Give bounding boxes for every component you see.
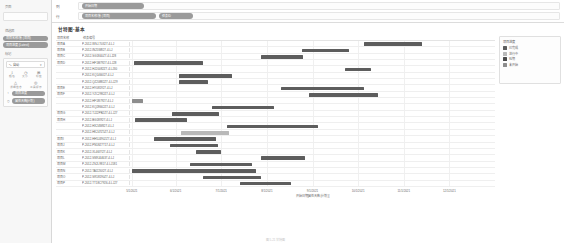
gridline <box>358 174 359 179</box>
gridline <box>132 162 133 167</box>
label-button[interactable]: ⊞ 标签 <box>33 70 44 79</box>
gantt-bar[interactable] <box>181 131 228 135</box>
worksheet-main: 列 开始日期 行 项目名称/集 (项目) 任务ID 甘特图-基本 项目名称 任务… <box>52 0 564 243</box>
gantt-bar[interactable] <box>170 144 217 148</box>
gantt-chart: 项目名称 任务编号 项目AP-2012-WSJ-T0327-4-LJ项目BP-2… <box>56 34 495 243</box>
gridline <box>449 47 450 52</box>
gantt-bar[interactable] <box>309 93 378 97</box>
gantt-bar[interactable] <box>203 176 261 180</box>
gridline <box>313 60 314 65</box>
gridline <box>267 85 268 90</box>
gridline <box>404 104 405 109</box>
row-plot-cell <box>130 168 495 173</box>
table-header: 项目名称 任务编号 <box>56 34 495 41</box>
row-project-label: 项目E <box>56 86 82 90</box>
gantt-bar[interactable] <box>302 49 349 53</box>
marks-card: ⤡ 自动 ▾ ↕ 颜色 ◷ 大小 ⊞ 标签 <box>3 58 48 106</box>
gantt-bar[interactable] <box>212 106 274 110</box>
legend-item[interactable]: 未开始 <box>503 63 557 67</box>
gridline <box>267 41 268 46</box>
rows-shelf-well[interactable]: 项目名称/集 (项目) 任务ID <box>78 12 560 20</box>
row-plot-cell <box>130 174 495 179</box>
size-button[interactable]: ◷ 大小 <box>20 70 31 79</box>
gridline <box>404 85 405 90</box>
gridline <box>132 181 133 186</box>
color-button[interactable]: ↕ 颜色 <box>7 70 18 79</box>
column-header-task-id: 任务编号 <box>83 35 131 40</box>
table-row[interactable]: 项目PP-2012-TT18C7926-4-LJ27 <box>56 181 495 187</box>
gridline <box>132 149 133 154</box>
row-project-label: 项目F <box>56 92 82 96</box>
gridline <box>404 174 405 179</box>
rows-pill-project[interactable]: 项目名称/集 (项目) <box>82 13 156 19</box>
row-project-label: 项目B <box>56 48 82 52</box>
row-plot-cell <box>130 130 495 135</box>
row-task-id: P-2012-HJ20082Z7-4-LJ30 <box>82 67 130 71</box>
tooltip-button[interactable]: ◎ 工具提示 <box>30 80 41 89</box>
row-task-id: P-2012-TT18C7926-4-LJ27 <box>82 181 130 185</box>
gridline <box>404 54 405 59</box>
detail-button[interactable]: △ 详细信息 <box>10 80 21 89</box>
gridline <box>267 149 268 154</box>
gantt-bar[interactable] <box>364 42 422 46</box>
pages-drop-zone[interactable] <box>3 12 48 21</box>
gridline <box>404 73 405 78</box>
gridline <box>404 149 405 154</box>
gantt-bar[interactable] <box>196 150 222 154</box>
gridline <box>358 54 359 59</box>
gantt-bar[interactable] <box>261 55 303 59</box>
row-plot-cell <box>130 85 495 90</box>
gantt-bar[interactable] <box>190 163 252 167</box>
gridline <box>358 41 359 46</box>
gridline <box>358 149 359 154</box>
legend-item[interactable]: 已完成 <box>503 46 557 50</box>
gantt-bar[interactable] <box>240 182 291 186</box>
gantt-bar[interactable] <box>179 80 208 84</box>
gridline <box>132 136 133 141</box>
filter-pill-project[interactable]: 项目名称/集 (项目) <box>3 36 48 41</box>
filter-pill-progress[interactable]: 项目进度 (Latest) <box>3 42 48 47</box>
gantt-bar[interactable] <box>154 137 216 141</box>
mark-pill-progress[interactable]: 项目进度 <box>12 91 46 96</box>
gridline <box>176 149 177 154</box>
legend-item[interactable]: 延期 <box>503 57 557 61</box>
gantt-bar[interactable] <box>135 118 186 122</box>
gridline <box>176 123 177 128</box>
gantt-bar[interactable] <box>172 112 219 116</box>
gantt-bar[interactable] <box>227 125 318 129</box>
x-axis-tick-label: 8/1/2021 <box>261 189 272 193</box>
legend-item[interactable]: 进行中 <box>503 52 557 56</box>
gridline <box>358 111 359 116</box>
gridline <box>267 143 268 148</box>
gridline <box>132 79 133 84</box>
mark-pill-days[interactable]: 属性天数(计划) <box>12 98 46 103</box>
gridline <box>176 85 177 90</box>
gridline <box>132 41 133 46</box>
gridline <box>132 143 133 148</box>
mark-type-select[interactable]: ⤡ 自动 ▾ <box>6 61 45 68</box>
row-plot-cell <box>130 162 495 167</box>
gantt-bar[interactable] <box>345 68 371 72</box>
gridline <box>449 66 450 71</box>
gantt-bar[interactable] <box>179 74 232 78</box>
color-swatch-icon: ↕ <box>6 91 10 95</box>
row-task-id: P-2012-YZC2982Z7-4-LJ <box>82 92 130 96</box>
gantt-bar[interactable] <box>134 61 203 65</box>
gantt-bar[interactable] <box>281 87 363 91</box>
rows-pill-task-id[interactable]: 任务ID <box>159 13 193 19</box>
row-plot-cell <box>130 111 495 116</box>
gridline <box>449 181 450 186</box>
columns-pill-start-date[interactable]: 开始日期 <box>82 3 144 9</box>
gridline <box>358 181 359 186</box>
gantt-bar[interactable] <box>132 169 256 173</box>
row-project-label: 项目J <box>56 143 82 147</box>
legend-item-label: 已完成 <box>509 46 518 50</box>
gantt-bar[interactable] <box>261 156 305 160</box>
row-task-id: P-2012-SG1840Z7-4-LJ28 <box>82 54 130 58</box>
row-project-label: 项目A <box>56 42 82 46</box>
row-project-label: 项目G <box>56 111 82 115</box>
columns-shelf-well[interactable]: 开始日期 <box>78 2 560 10</box>
gridline <box>404 168 405 173</box>
gridline <box>176 162 177 167</box>
gantt-bar[interactable] <box>132 99 143 103</box>
